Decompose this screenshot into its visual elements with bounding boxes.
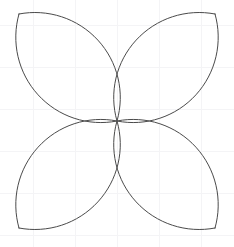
- quatrefoil-figure: [0, 0, 234, 247]
- figure-canvas: [0, 0, 234, 247]
